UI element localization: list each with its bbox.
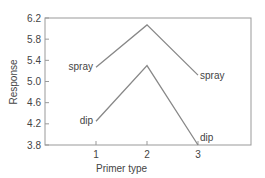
y-tick-label: 3.8 [27,140,41,151]
y-tick-label: 5.0 [27,76,41,87]
series-end-label: spray [200,70,224,81]
series-start-label: dip [80,115,94,126]
series-end-label: dip [200,132,214,143]
plot-frame [45,18,251,145]
x-axis: 123 [93,141,201,160]
series-line-dip [96,66,198,145]
interaction-plot: 3.84.24.65.05.45.86.2 123 sprayspraydipd… [0,0,265,178]
y-tick-label: 4.6 [27,97,41,108]
series-lines: sprayspraydipdip [69,25,225,145]
y-tick-label: 6.2 [27,13,41,24]
y-tick-label: 4.2 [27,118,41,129]
series-start-label: spray [69,61,93,72]
series-line-spray [96,25,198,75]
chart-svg: 3.84.24.65.05.45.86.2 123 sprayspraydipd… [0,0,265,178]
x-tick-label: 3 [195,149,201,160]
y-tick-label: 5.8 [27,34,41,45]
x-tick-label: 2 [144,149,150,160]
y-axis: 3.84.24.65.05.45.86.2 [27,13,49,151]
x-tick-label: 1 [93,149,99,160]
y-tick-label: 5.4 [27,55,41,66]
x-axis-label: Primer type [96,163,148,174]
y-axis-label: Response [8,59,19,104]
